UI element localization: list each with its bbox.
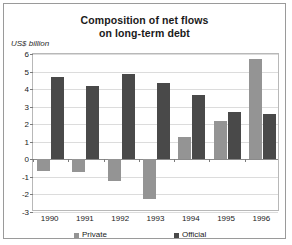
- bar-official-1995: [228, 112, 241, 159]
- legend-label-official: Official: [182, 230, 206, 239]
- y-axis-tick-label: 2: [25, 120, 29, 129]
- y-axis-tick-label: -3: [22, 208, 29, 217]
- y-axis-tick-label: 3: [25, 102, 29, 111]
- y-axis-tick-label: 6: [25, 50, 29, 59]
- bar-official-1992: [122, 74, 135, 159]
- bar-private-1991: [72, 159, 85, 172]
- y-axis-tick-label: 5: [25, 67, 29, 76]
- y-axis-tick-mark: [30, 212, 33, 213]
- legend-item-private[interactable]: Private: [74, 230, 107, 240]
- x-axis-tick-mark: [104, 159, 105, 162]
- bar-group-1994: [174, 54, 209, 210]
- legend-item-official[interactable]: Official: [174, 230, 206, 240]
- bar-group-1993: [139, 54, 174, 210]
- bar-group-1992: [104, 54, 139, 210]
- bar-group-1995: [209, 54, 244, 210]
- y-axis-tick-label: 0: [25, 155, 29, 164]
- x-axis-label-1996: 1996: [252, 214, 270, 223]
- x-axis-label-1992: 1992: [111, 214, 129, 223]
- bar-private-1995: [214, 121, 227, 160]
- bar-private-1996: [249, 59, 262, 159]
- bar-group-1991: [68, 54, 103, 210]
- x-axis-label-1993: 1993: [147, 214, 165, 223]
- bar-private-1990: [37, 159, 50, 170]
- bar-official-1993: [157, 83, 170, 159]
- y-axis-unit-label: US$ billion: [11, 39, 49, 48]
- bar-group-1990: [33, 54, 68, 210]
- y-axis-tick-label: 4: [25, 85, 29, 94]
- legend-swatch-private: [74, 233, 79, 238]
- legend-label-private: Private: [82, 230, 107, 239]
- x-axis-tick-mark: [139, 159, 140, 162]
- y-axis-tick-label: -1: [22, 172, 29, 181]
- x-axis-tick-mark: [174, 159, 175, 162]
- bar-official-1994: [192, 95, 205, 159]
- x-axis-tick-mark: [245, 159, 246, 162]
- x-axis-label-1991: 1991: [76, 214, 94, 223]
- legend-swatch-official: [174, 233, 179, 238]
- y-axis-tick-label: -2: [22, 190, 29, 199]
- x-axis-label-1994: 1994: [182, 214, 200, 223]
- x-axis-tick-mark: [33, 159, 34, 162]
- bar-official-1990: [51, 77, 64, 160]
- chart-frame: Composition of net flows on long-term de…: [3, 3, 286, 239]
- bar-official-1991: [86, 86, 99, 160]
- bar-group-1996: [245, 54, 280, 210]
- x-axis-tick-mark: [68, 159, 69, 162]
- gridline: [33, 212, 278, 213]
- y-axis-tick-label: 1: [25, 137, 29, 146]
- chart-title: Composition of net flows on long-term de…: [4, 14, 285, 40]
- bar-private-1993: [143, 159, 156, 199]
- x-axis-tick-mark: [209, 159, 210, 162]
- bar-private-1994: [178, 137, 191, 160]
- plot-area: 6543210-1-2-3: [32, 53, 279, 211]
- chart-title-line-1: Composition of net flows: [4, 14, 285, 27]
- x-axis-label-1995: 1995: [217, 214, 235, 223]
- x-axis-label-1990: 1990: [41, 214, 59, 223]
- bar-private-1992: [108, 159, 121, 181]
- chart-legend: PrivateOfficial: [4, 230, 285, 242]
- bar-official-1996: [263, 114, 276, 160]
